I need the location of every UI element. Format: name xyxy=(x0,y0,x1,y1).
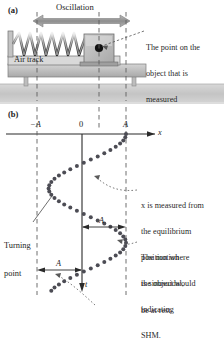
callout-shm-line-2: is sinusoidal, xyxy=(141,280,184,289)
callout-shm-line-4: SHM. xyxy=(141,332,184,341)
table-leg-left xyxy=(24,76,28,86)
callout-shm-line-1: The motion xyxy=(141,254,184,263)
x-axis-label: x xyxy=(158,129,162,138)
turning-point-label: Turning point xyxy=(4,222,31,297)
tick-label-minus-a: −A xyxy=(30,120,41,129)
t-axis-label: t xyxy=(85,281,87,290)
oscillation-label: Oscillation xyxy=(56,3,94,12)
panel-letter-a: (a) xyxy=(8,6,18,15)
air-track-label: Air track xyxy=(14,56,43,65)
leader-bottom-caption-arrowhead xyxy=(55,273,61,278)
table-leg-right xyxy=(132,76,136,86)
turning-point-label-line-2: point xyxy=(4,269,31,278)
callout-x-measured-line-1: x is measured from xyxy=(141,202,204,211)
x-axis-arrowhead xyxy=(147,131,155,137)
callout-measured-point-line-1: The point on the xyxy=(146,44,200,53)
leader-x-measured xyxy=(96,177,137,190)
panel-letter-b: (b) xyxy=(8,110,18,119)
spring-anchor-wall xyxy=(8,31,13,57)
tick-label-plus-a: A xyxy=(123,120,128,129)
amplitude-label-upper: A xyxy=(99,217,104,226)
callout-shm-line-3: indicating xyxy=(141,306,184,315)
callout-measured-point-line-2: object that is xyxy=(146,70,200,79)
callout-measured-point: The point on the object that is measured xyxy=(146,26,200,122)
leader-bottom-caption xyxy=(57,275,95,305)
callout-shm: The motion is sinusoidal, indicating SHM… xyxy=(141,236,184,342)
tick-label-zero: 0 xyxy=(79,120,83,129)
turning-point-leader xyxy=(33,196,52,222)
turning-point-label-line-1: Turning xyxy=(4,241,31,250)
t-axis-arrowhead xyxy=(79,283,85,292)
leader-x-measured-arrowhead xyxy=(94,175,100,180)
callout-measured-point-line-3: measured xyxy=(146,96,200,105)
amplitude-label-lower: A xyxy=(56,260,61,269)
oscillation-arrow xyxy=(33,15,130,27)
air-track-base xyxy=(8,64,146,77)
